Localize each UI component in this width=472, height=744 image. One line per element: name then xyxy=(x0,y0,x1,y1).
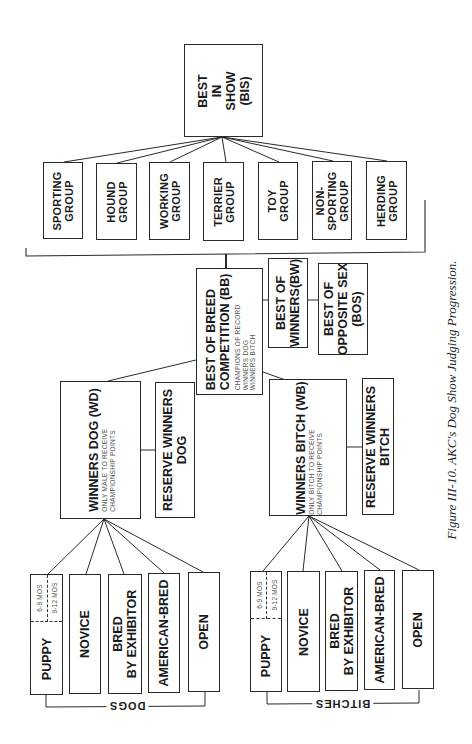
winners-bitch-title: WINNERS BITCH (WB) xyxy=(294,381,308,514)
group-label: TERRIER xyxy=(212,177,224,227)
dog-class-novice: NOVICE xyxy=(69,574,101,694)
puppy-6-9-months: 6-9 MOS xyxy=(35,584,42,611)
winners-dog-title: WINNERS DOG (WD) xyxy=(86,388,100,512)
best-in-show-label: BEST IN SHOW (BIS) xyxy=(196,71,252,110)
best-of-breed-note: WINNERS DOG xyxy=(241,273,249,390)
best-of-breed-title: BEST OF BREED xyxy=(203,273,217,390)
hound-group-box: HOUNDGROUP xyxy=(96,163,137,240)
sporting-group-box: SPORTINGGROUP xyxy=(43,162,83,239)
group-label: NON- xyxy=(314,171,326,230)
group-label: WORKING xyxy=(158,173,170,229)
bitch-class-american-bred: AMERICAN-BRED xyxy=(364,570,395,690)
puppy-9-12-months: 9-12 MOS xyxy=(51,582,58,613)
puppy-9-12-months: 9-12 MOS xyxy=(270,579,277,610)
bitch-class-novice: NOVICE xyxy=(287,571,320,692)
group-label: GROUP xyxy=(278,180,290,221)
group-label: SPORTING xyxy=(326,171,338,230)
dog-class-puppy: 6-9 MOS 9-12 MOS PUPPY xyxy=(30,574,63,695)
bitches-bracket-label: BITCHES xyxy=(312,698,373,709)
figure-caption: Figure III-10. AKC's Dog Show Judging Pr… xyxy=(444,260,460,539)
dogs-bracket-label: DOGS xyxy=(106,700,148,711)
toy-group-box: TOYGROUP xyxy=(258,162,298,240)
puppy-6-9-months: 6-9 MOS xyxy=(255,581,262,608)
group-label: HOUND xyxy=(105,181,117,222)
best-of-breed-box: BEST OF BREED COMPETITION (BB) CHAMPIONS… xyxy=(196,268,263,395)
best-of-breed-title: COMPETITION (BB) xyxy=(217,273,231,390)
puppy-age-divider xyxy=(47,575,48,622)
non-sporting-group-box: NON-SPORTINGGROUP xyxy=(312,161,352,240)
best-of-breed-note: WINNERS BITCH xyxy=(248,273,256,390)
group-label: GROUP xyxy=(117,181,129,222)
group-label: GROUP xyxy=(63,171,75,230)
winners-bitch-box: WINNERS BITCH (WB) ONLY BITCH TO RECEIVE… xyxy=(269,379,347,516)
reserve-winners-bitch-box: RESERVE WINNERSBITCH xyxy=(362,378,394,515)
best-of-winners-box: BEST OFWINNERS(BW) xyxy=(268,258,308,348)
bitch-class-bred-by-exhibitor: BREDBY EXHIBITOR xyxy=(325,571,358,691)
group-label: GROUP xyxy=(224,177,236,227)
reserve-winners-dog-box: RESERVE WINNERSDOG xyxy=(155,382,195,518)
puppy-age-divider xyxy=(266,572,267,619)
herding-group-box: HERDINGGROUP xyxy=(366,161,407,240)
best-of-breed-note: CHAMPIONS OF RECORD xyxy=(233,273,241,390)
group-label: HERDING xyxy=(375,174,387,226)
dog-class-bred-by-exhibitor: BREDBY EXHIBITOR xyxy=(108,574,142,694)
terrier-group-box: TERRIERGROUP xyxy=(203,162,244,241)
group-label: SPORTING xyxy=(51,171,63,230)
dog-class-open: OPEN xyxy=(188,572,220,692)
dog-class-american-bred: AMERICAN-BRED xyxy=(148,573,180,693)
group-label: GROUP xyxy=(170,173,182,229)
best-of-opposite-sex-box: BEST OFOPPOSITE SEX(BOS) xyxy=(318,263,368,355)
group-label: TOY xyxy=(266,180,278,221)
bitch-class-puppy: 6-9 MOS 9-12 MOS PUPPY xyxy=(250,571,282,692)
working-group-box: WORKINGGROUP xyxy=(149,162,190,240)
best-in-show-box: BEST IN SHOW (BIS) xyxy=(184,44,263,137)
group-label: GROUP xyxy=(338,171,350,230)
winners-dog-box: WINNERS DOG (WD) ONLY MALE TO RECEIVE CH… xyxy=(60,381,141,519)
bitch-class-open: OPEN xyxy=(402,570,434,689)
group-label: GROUP xyxy=(387,174,399,226)
